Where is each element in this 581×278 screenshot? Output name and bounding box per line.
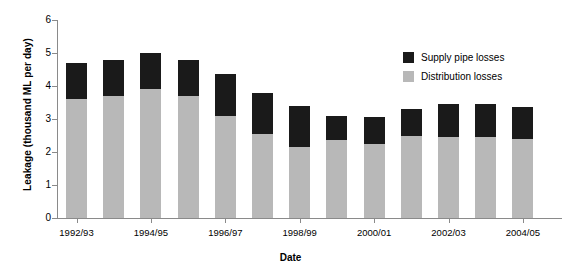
y-axis-tick bbox=[52, 119, 57, 120]
bar-1998-99 bbox=[289, 106, 310, 218]
chart-legend: Supply pipe losses Distribution losses bbox=[403, 49, 504, 87]
bar-segment-supply-pipe-losses bbox=[103, 60, 124, 96]
y-axis-tick-label: 6 bbox=[35, 16, 51, 24]
x-axis-tick-label: 1996/97 bbox=[195, 227, 255, 238]
bar-1997-98 bbox=[252, 93, 273, 218]
bar-2000-01 bbox=[364, 117, 385, 218]
bar-1995-96 bbox=[178, 60, 199, 218]
bar-segment-supply-pipe-losses bbox=[438, 104, 459, 137]
bar-segment-supply-pipe-losses bbox=[475, 104, 496, 137]
bar-segment-supply-pipe-losses bbox=[252, 93, 273, 134]
bar-segment-distribution-losses bbox=[364, 144, 385, 218]
chart-figure: Leakage (thousand ML per day) 0123456 19… bbox=[0, 0, 581, 278]
legend-label: Supply pipe losses bbox=[421, 52, 504, 63]
x-axis-tick bbox=[151, 218, 152, 223]
y-axis-tick bbox=[52, 53, 57, 54]
x-axis-tick-label: 2000/01 bbox=[344, 227, 404, 238]
bar-1993-94 bbox=[103, 60, 124, 218]
bar-2001-02 bbox=[401, 109, 422, 218]
bar-segment-distribution-losses bbox=[438, 137, 459, 218]
bar-2004-05 bbox=[512, 107, 533, 218]
bar-segment-distribution-losses bbox=[140, 89, 161, 218]
x-axis-line bbox=[57, 218, 562, 219]
x-axis-tick-label: 1994/95 bbox=[121, 227, 181, 238]
legend-item-distribution-losses: Distribution losses bbox=[403, 68, 504, 84]
bar-segment-supply-pipe-losses bbox=[364, 117, 385, 143]
y-axis-title: Leakage (thousand ML per day) bbox=[22, 10, 33, 220]
x-axis-tick bbox=[300, 218, 301, 223]
bar-1994-95 bbox=[140, 53, 161, 218]
bar-segment-distribution-losses bbox=[103, 96, 124, 218]
x-axis-tick-label: 2004/05 bbox=[493, 227, 553, 238]
bar-segment-supply-pipe-losses bbox=[66, 63, 87, 99]
legend-item-supply-pipe-losses: Supply pipe losses bbox=[403, 49, 504, 65]
bar-segment-distribution-losses bbox=[512, 139, 533, 218]
y-axis-tick-label: 5 bbox=[35, 49, 51, 57]
bar-segment-supply-pipe-losses bbox=[215, 74, 236, 115]
x-axis-tick-label: 2002/03 bbox=[419, 227, 479, 238]
bar-segment-supply-pipe-losses bbox=[140, 53, 161, 89]
bar-1992-93 bbox=[66, 63, 87, 218]
bar-segment-supply-pipe-losses bbox=[326, 116, 347, 141]
x-axis-tick bbox=[374, 218, 375, 223]
legend-swatch-icon bbox=[403, 71, 414, 82]
bar-segment-distribution-losses bbox=[289, 147, 310, 218]
bar-segment-distribution-losses bbox=[326, 140, 347, 218]
bar-segment-distribution-losses bbox=[475, 137, 496, 218]
bar-segment-distribution-losses bbox=[66, 99, 87, 218]
bar-segment-distribution-losses bbox=[178, 96, 199, 218]
x-axis-tick-label: 1992/93 bbox=[47, 227, 107, 238]
bar-segment-distribution-losses bbox=[401, 136, 422, 219]
y-axis-tick bbox=[52, 218, 57, 219]
bar-1999-00 bbox=[326, 116, 347, 218]
bar-2003-04 bbox=[475, 104, 496, 218]
legend-swatch-icon bbox=[403, 52, 414, 63]
x-axis-tick-label: 1998/99 bbox=[270, 227, 330, 238]
legend-label: Distribution losses bbox=[421, 71, 502, 82]
bar-1996-97 bbox=[215, 74, 236, 218]
y-axis-line bbox=[57, 20, 58, 219]
bar-segment-distribution-losses bbox=[252, 134, 273, 218]
y-axis-tick-label: 2 bbox=[35, 148, 51, 156]
y-axis-tick-label: 0 bbox=[35, 214, 51, 222]
x-axis-tick bbox=[449, 218, 450, 223]
y-axis-tick bbox=[52, 152, 57, 153]
bar-2002-03 bbox=[438, 104, 459, 218]
y-axis-tick bbox=[52, 20, 57, 21]
bar-segment-supply-pipe-losses bbox=[289, 106, 310, 147]
x-axis-tick bbox=[225, 218, 226, 223]
x-axis-title: Date bbox=[0, 252, 581, 263]
bar-segment-distribution-losses bbox=[215, 116, 236, 218]
bar-segment-supply-pipe-losses bbox=[178, 60, 199, 96]
bar-segment-supply-pipe-losses bbox=[512, 107, 533, 138]
x-axis-tick bbox=[523, 218, 524, 223]
y-axis-tick-label: 4 bbox=[35, 82, 51, 90]
y-axis-tick bbox=[52, 86, 57, 87]
x-axis-tick bbox=[77, 218, 78, 223]
y-axis-tick-label: 3 bbox=[35, 115, 51, 123]
y-axis-tick-label: 1 bbox=[35, 181, 51, 189]
y-axis-tick bbox=[52, 185, 57, 186]
bar-segment-supply-pipe-losses bbox=[401, 109, 422, 135]
